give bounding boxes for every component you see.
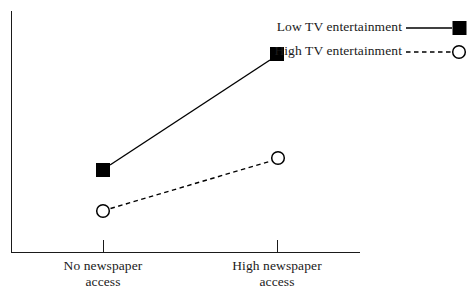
legend-label-low-tv-entertainment: Low TV entertainment xyxy=(277,18,402,35)
series-line-high-tv-entertainment xyxy=(111,161,272,209)
chart-legend: Low TV entertainment High TV entertainme… xyxy=(280,18,470,66)
legend-item-high-tv-entertainment: High TV entertainment xyxy=(280,42,470,66)
interaction-plot-chart: No newspaper access High newspaper acces… xyxy=(0,0,473,294)
legend-key-open-circle-dashed-line xyxy=(406,42,470,62)
x-axis-label-line-1: High newspaper xyxy=(207,258,347,274)
x-axis-label-high-newspaper-access: High newspaper access xyxy=(207,258,347,289)
x-axis-label-no-newspaper-access: No newspaper access xyxy=(33,258,173,289)
legend-label-high-tv-entertainment: High TV entertainment xyxy=(274,42,402,59)
x-axis-label-line-1: No newspaper xyxy=(33,258,173,274)
x-axis-label-line-2: access xyxy=(207,274,347,290)
data-point-low-tv-no-newspaper xyxy=(97,164,110,177)
series-line-low-tv-entertainment xyxy=(110,60,270,165)
data-point-high-tv-no-newspaper xyxy=(97,205,110,218)
x-axis-label-line-2: access xyxy=(33,274,173,290)
data-point-high-tv-high-newspaper xyxy=(272,152,285,165)
legend-item-low-tv-entertainment: Low TV entertainment xyxy=(280,18,470,42)
legend-key-filled-square-solid-line xyxy=(406,18,470,38)
